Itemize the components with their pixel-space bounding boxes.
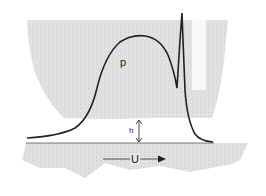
- film-thickness-arrow: [136, 120, 142, 142]
- pressure-label: p: [120, 56, 126, 68]
- ehl-diagram: [0, 0, 266, 196]
- upper-body-gap: [192, 18, 206, 90]
- film-thickness-label: h: [129, 126, 133, 135]
- velocity-label: U: [130, 153, 140, 165]
